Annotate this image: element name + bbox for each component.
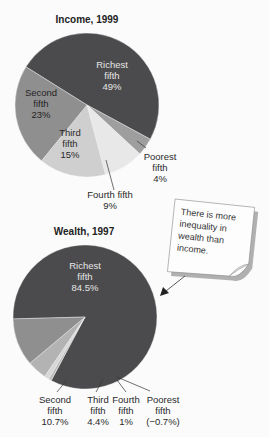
slice-label: Second: [39, 394, 71, 405]
annotation-note: There is more inequality in wealth than …: [167, 199, 259, 284]
income-chart-title: Income, 1999: [56, 14, 119, 25]
slice-label: 15%: [60, 149, 80, 160]
slice-label: 9%: [103, 200, 117, 211]
annotation-arrowhead: [160, 287, 169, 296]
slice-label: Poorest: [147, 394, 180, 405]
slice-label: Third: [59, 127, 81, 138]
wealth-chart-title: Wealth, 1997: [54, 226, 115, 237]
slice-label: fifth: [118, 405, 133, 416]
slice-label: fifth: [62, 138, 77, 149]
slice-label: fifth: [155, 405, 170, 416]
slice-label: 49%: [102, 81, 122, 92]
slice-label: Fourth: [112, 394, 139, 405]
slice-label: Poorest: [144, 151, 177, 162]
slice-label: Second: [25, 87, 57, 98]
slice-label: fifth: [152, 162, 167, 173]
slice-label: Richest: [69, 260, 101, 271]
slice-label: 84.5%: [72, 282, 99, 293]
slice-label: (−0.7%): [146, 416, 180, 427]
slice-label: 23%: [31, 109, 51, 120]
slice-label: 4.4%: [87, 416, 109, 427]
slice-label: fifth: [47, 405, 62, 416]
annotation-arrow: [166, 276, 185, 291]
chart-canvas: Income, 1999 Richestfifth49%Poorestfifth…: [0, 0, 269, 437]
slice-label: 1%: [119, 416, 133, 427]
slice-label: fifth: [33, 98, 48, 109]
leader-line: [117, 377, 150, 391]
slice-label: fifth: [77, 271, 92, 282]
leader-line: [117, 380, 126, 392]
slice-label: 4%: [153, 173, 167, 184]
slice-label: fifth: [90, 405, 105, 416]
slice-label: Fourth fifth: [87, 189, 132, 200]
slice-label: fifth: [104, 70, 119, 81]
slice-label: Richest: [96, 59, 128, 70]
slice-label: 10.7%: [42, 416, 69, 427]
slice-label: Third: [87, 394, 109, 405]
